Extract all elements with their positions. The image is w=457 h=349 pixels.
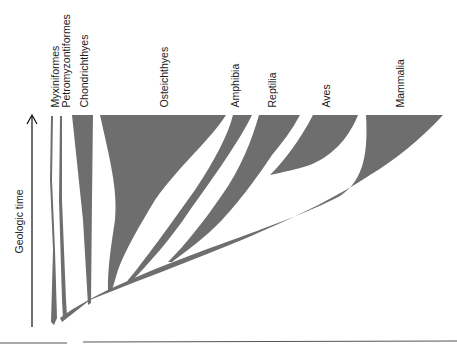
branch-petromyzontiformes	[59, 116, 67, 318]
baseline-right	[83, 341, 457, 342]
branch-myxiniformes	[50, 116, 57, 325]
time-axis-arrow-icon	[27, 115, 37, 327]
branch-chondrichthyes	[72, 115, 93, 305]
spindle-graphic	[0, 0, 457, 349]
branch-osteichthyes	[100, 115, 226, 292]
